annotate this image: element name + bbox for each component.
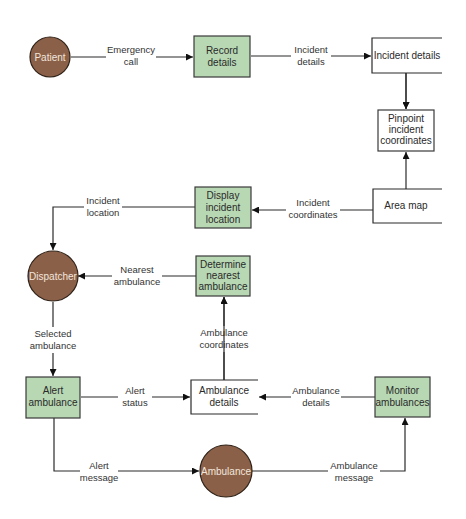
- data-flow-diagram: Emergency call Incident details Incident…: [0, 0, 466, 519]
- svg-text:Monitor: Monitor: [386, 385, 420, 396]
- store-ambulance-details: Ambulance details: [191, 380, 258, 414]
- flow-label: Selected: [35, 328, 72, 339]
- svg-text:details: details: [208, 57, 237, 68]
- svg-text:Record: Record: [206, 45, 238, 56]
- entity-label: Ambulance: [201, 466, 251, 477]
- svg-text:Alert: Alert: [43, 385, 64, 396]
- flow-label: details: [297, 56, 325, 67]
- svg-text:Incident details: Incident details: [374, 50, 441, 61]
- flow-incident-location: Incident location: [53, 194, 195, 250]
- process-record-details: Record details: [194, 36, 250, 77]
- flow-label: details: [302, 397, 330, 408]
- entity-label: Patient: [34, 52, 65, 63]
- flow-label: call: [124, 56, 138, 67]
- flow-label: Incident: [86, 195, 120, 206]
- entity-ambulance: Ambulance: [200, 445, 252, 497]
- flow-alert-message: Alert message: [54, 418, 199, 485]
- flow-label: coordinates: [288, 209, 337, 220]
- flow-label: message: [80, 472, 119, 483]
- flow-label: location: [87, 207, 120, 218]
- flow-label: status: [122, 397, 148, 408]
- flow-incident-details-top: Incident details: [251, 43, 371, 69]
- flow-label: Nearest: [120, 264, 154, 275]
- process-display-incident-location: Display incident location: [195, 187, 251, 228]
- flow-alert-status: Alert status: [81, 384, 190, 410]
- svg-text:ambulances: ambulances: [376, 397, 430, 408]
- svg-text:Determine: Determine: [200, 259, 247, 270]
- process-alert-ambulance: Alert ambulance: [26, 377, 80, 418]
- svg-text:coordinates: coordinates: [380, 135, 432, 146]
- entity-dispatcher: Dispatcher: [28, 251, 78, 301]
- flow-label: message: [335, 472, 374, 483]
- svg-text:Ambulance: Ambulance: [199, 385, 249, 396]
- entity-patient: Patient: [30, 37, 70, 77]
- flow-label: Incident: [294, 44, 328, 55]
- flow-label: Alert: [125, 385, 145, 396]
- flow-label: Emergency: [107, 44, 155, 55]
- flow-nearest-ambulance: Nearest ambulance: [78, 263, 196, 289]
- svg-text:Display: Display: [207, 190, 240, 201]
- flow-ambulance-message: Ambulance message: [252, 418, 405, 485]
- flow-label: Ambulance: [292, 385, 340, 396]
- flow-label: ambulance: [30, 340, 76, 351]
- process-pinpoint-incident-coordinates: Pinpoint incident coordinates: [378, 110, 434, 151]
- flow-incident-coordinates: Incident coordinates: [252, 196, 373, 222]
- process-monitor-ambulances: Monitor ambulances: [375, 377, 430, 417]
- store-incident-details: Incident details: [372, 38, 442, 73]
- svg-text:incident: incident: [206, 202, 241, 213]
- svg-text:nearest: nearest: [206, 270, 240, 281]
- flow-label: Ambulance: [330, 460, 378, 471]
- svg-text:details: details: [210, 397, 239, 408]
- flow-ambulance-details: Ambulance details: [259, 384, 375, 410]
- flow-label: Incident: [296, 197, 330, 208]
- flow-label: Alert: [89, 460, 109, 471]
- svg-text:ambulance: ambulance: [199, 281, 248, 292]
- svg-text:location: location: [206, 214, 240, 225]
- svg-text:ambulance: ambulance: [29, 397, 78, 408]
- entity-label: Dispatcher: [29, 271, 77, 282]
- store-area-map: Area map: [373, 189, 442, 223]
- flow-label: ambulance: [114, 276, 160, 287]
- process-determine-nearest-ambulance: Determine nearest ambulance: [196, 256, 250, 296]
- svg-text:Area map: Area map: [384, 200, 428, 211]
- flow-selected-ambulance: Selected ambulance: [28, 302, 78, 376]
- svg-text:incident: incident: [389, 124, 424, 135]
- flow-emergency-call: Emergency call: [71, 43, 193, 69]
- svg-text:Pinpoint: Pinpoint: [388, 113, 424, 124]
